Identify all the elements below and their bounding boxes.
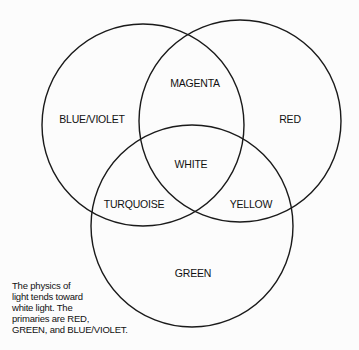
caption-line: GREEN, and BLUE/VIOLET. [12,324,142,335]
caption-line: The physics of [12,280,142,291]
label-red: RED [279,113,301,125]
label-blue-violet: BLUE/VIOLET [59,113,125,125]
label-yellow: YELLOW [230,198,273,210]
caption-line: light tends toward [12,291,142,302]
label-turquoise: TURQUOISE [104,198,165,210]
label-magenta: MAGENTA [170,77,220,89]
label-green: GREEN [175,267,211,279]
red-circle [139,20,341,222]
venn-diagram: MAGENTA BLUE/VIOLET RED WHITE TURQUOISE … [0,0,359,350]
caption-line: white light. The [12,302,142,313]
blue-violet-circle [42,24,244,226]
label-white: WHITE [175,158,208,170]
caption: The physics of light tends toward white … [12,280,142,335]
caption-line: primaries are RED, [12,313,142,324]
